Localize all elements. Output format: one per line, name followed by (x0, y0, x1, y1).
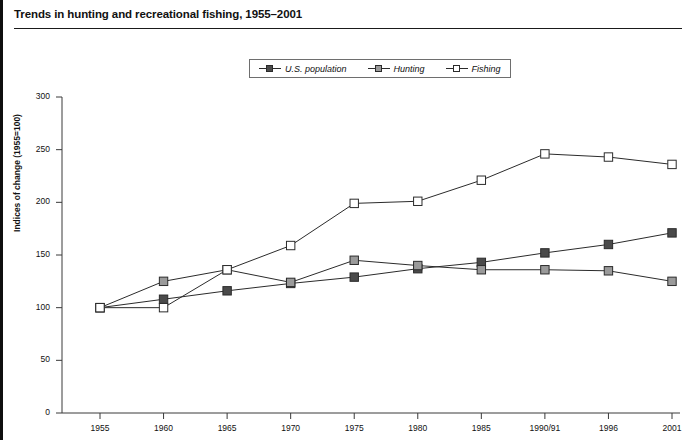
legend-item-hunting[interactable]: Hunting (368, 64, 425, 74)
x-tick-label: 1965 (205, 423, 249, 433)
title-divider (14, 28, 682, 29)
data-point-fishing-1996[interactable] (604, 153, 612, 161)
y-tick-label: 0 (24, 407, 50, 417)
series-line-fishing (100, 154, 672, 308)
x-tick-label: 1996 (586, 423, 630, 433)
legend-label-fishing: Fishing (472, 64, 501, 74)
legend-label-us-population: U.S. population (285, 64, 347, 74)
x-tick-label: 1980 (396, 423, 440, 433)
legend-marker-us-population-icon (259, 64, 281, 73)
data-point-hunting-1980[interactable] (414, 261, 422, 269)
y-tick-label: 200 (24, 196, 50, 206)
data-point-u-s-population-2001[interactable] (668, 229, 676, 237)
y-tick-label: 150 (24, 249, 50, 259)
data-point-hunting-1985[interactable] (477, 266, 485, 274)
data-point-fishing-1955[interactable] (96, 303, 104, 311)
data-point-fishing-1965[interactable] (223, 266, 231, 274)
legend-item-fishing[interactable]: Fishing (446, 64, 501, 74)
data-point-u-s-population-1960[interactable] (159, 295, 167, 303)
data-point-hunting-1996[interactable] (604, 267, 612, 275)
x-tick-label: 1975 (332, 423, 376, 433)
legend-marker-hunting-icon (368, 64, 390, 73)
data-point-fishing-1990-91[interactable] (541, 150, 549, 158)
data-point-u-s-population-1965[interactable] (223, 287, 231, 295)
data-point-fishing-1975[interactable] (350, 199, 358, 207)
data-point-fishing-1960[interactable] (159, 303, 167, 311)
data-point-u-s-population-1990-91[interactable] (541, 249, 549, 257)
data-point-fishing-1980[interactable] (414, 197, 422, 205)
data-point-fishing-1970[interactable] (286, 241, 294, 249)
y-tick-label: 100 (24, 302, 50, 312)
x-tick-label: 1985 (459, 423, 503, 433)
page-left-rule (0, 0, 3, 440)
chart-legend: U.S. population Hunting Fishing (249, 59, 511, 78)
data-point-u-s-population-1955[interactable] (96, 303, 104, 311)
y-tick-label: 50 (24, 354, 50, 364)
x-tick-label: 1990/91 (523, 423, 567, 433)
series-line-hunting (100, 260, 672, 307)
x-tick-label: 1960 (142, 423, 186, 433)
series-line-u-s-population (100, 233, 672, 308)
data-point-hunting-2001[interactable] (668, 277, 676, 285)
data-point-hunting-1990-91[interactable] (541, 266, 549, 274)
data-point-u-s-population-1970[interactable] (286, 279, 294, 287)
legend-marker-fishing-icon (446, 64, 468, 73)
x-tick-label: 1970 (269, 423, 313, 433)
data-point-u-s-population-1975[interactable] (350, 273, 358, 281)
y-tick-label: 250 (24, 144, 50, 154)
data-point-hunting-1965[interactable] (223, 266, 231, 274)
x-tick-label: 2001 (650, 423, 686, 433)
data-point-hunting-1975[interactable] (350, 256, 358, 264)
x-tick-label: 1955 (78, 423, 122, 433)
data-point-u-s-population-1980[interactable] (414, 264, 422, 272)
page-title: Trends in hunting and recreational fishi… (14, 8, 302, 20)
data-point-fishing-2001[interactable] (668, 160, 676, 168)
data-point-hunting-1970[interactable] (286, 278, 294, 286)
legend-label-hunting: Hunting (394, 64, 425, 74)
data-point-u-s-population-1996[interactable] (604, 240, 612, 248)
y-axis-label: Indices of change (1955=100) (12, 78, 22, 268)
data-point-hunting-1960[interactable] (159, 277, 167, 285)
legend-item-us-population[interactable]: U.S. population (259, 64, 347, 74)
y-tick-label: 300 (24, 91, 50, 101)
data-point-fishing-1985[interactable] (477, 176, 485, 184)
data-point-u-s-population-1985[interactable] (477, 258, 485, 266)
chart-page: Trends in hunting and recreational fishi… (0, 0, 686, 440)
data-point-hunting-1955[interactable] (96, 303, 104, 311)
